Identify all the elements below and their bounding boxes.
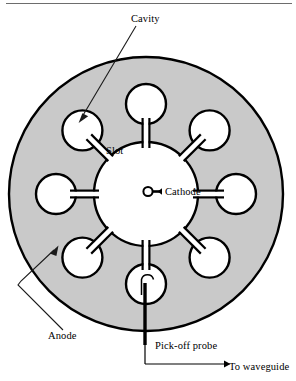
label-anode: Anode xyxy=(48,331,77,342)
label-to-waveguide: To waveguide xyxy=(229,362,289,373)
magnetron-cross-section-diagram xyxy=(0,0,296,381)
figure-canvas: Cavity Slot Cathode Anode Pick-off probe… xyxy=(0,0,296,381)
label-slot: Slot xyxy=(106,146,123,157)
label-cathode: Cathode xyxy=(165,187,201,198)
label-pick-off-probe: Pick-off probe xyxy=(155,341,217,352)
label-cavity: Cavity xyxy=(131,14,160,25)
